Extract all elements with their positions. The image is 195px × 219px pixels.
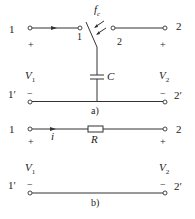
resistor-label: R [90, 133, 98, 145]
figure-b: 1 + i R + 2 V1 V2 1′ − − 2′ b) [8, 123, 182, 209]
figure-a: 1 + 1 fc 2 2 + V1 V2 C 1′ − − 2′ a) [8, 3, 182, 117]
plus-sign-left: + [28, 39, 34, 50]
terminal-1 [28, 127, 32, 131]
switch-terminal-1 [78, 26, 82, 30]
terminal-1-prime [28, 191, 32, 195]
voltage-v1: V1 [25, 69, 36, 84]
terminal-1-prime [28, 100, 32, 104]
voltage-v2: V2 [159, 69, 170, 84]
terminal-2-prime [163, 100, 167, 104]
caption-b: b) [91, 197, 99, 209]
terminal-2-prime [163, 191, 167, 195]
port-label-2-prime: 2′ [174, 89, 182, 101]
minus-sign-left: − [27, 88, 33, 99]
current-arrow-icon [51, 26, 57, 30]
terminal-2 [163, 26, 167, 30]
switch-terminal-2 [111, 26, 115, 30]
voltage-v2: V2 [159, 161, 170, 176]
terminal-1 [28, 26, 32, 30]
minus-sign-left: − [27, 179, 33, 190]
port-label-1: 1 [9, 23, 15, 35]
switch-label-2: 2 [117, 36, 122, 47]
terminal-2 [163, 127, 167, 131]
switch-blade [86, 22, 97, 47]
port-label-2-prime: 2′ [174, 180, 182, 192]
light-arrows-icon [94, 21, 106, 35]
capacitor-label: C [107, 70, 115, 82]
minus-sign-right: − [160, 88, 166, 99]
caption-a: a) [91, 105, 99, 117]
plus-sign-right: + [160, 39, 166, 50]
port-label-2: 2 [176, 123, 182, 135]
switch-label-fc: fc [94, 3, 101, 18]
current-label: i [51, 130, 54, 142]
voltage-v1: V1 [25, 161, 36, 176]
switch-label-1: 1 [77, 31, 82, 42]
port-label-1: 1 [9, 123, 15, 135]
minus-sign-right: − [160, 179, 166, 190]
resistor-icon [88, 126, 103, 132]
plus-sign-right: + [160, 136, 166, 147]
plus-sign-left: + [28, 136, 34, 147]
circuit-diagram: 1 + 1 fc 2 2 + V1 V2 C 1′ − − 2′ a) 1 + … [0, 0, 195, 219]
port-label-1-prime: 1′ [8, 88, 16, 100]
port-label-2: 2 [176, 20, 182, 32]
port-label-1-prime: 1′ [8, 179, 16, 191]
